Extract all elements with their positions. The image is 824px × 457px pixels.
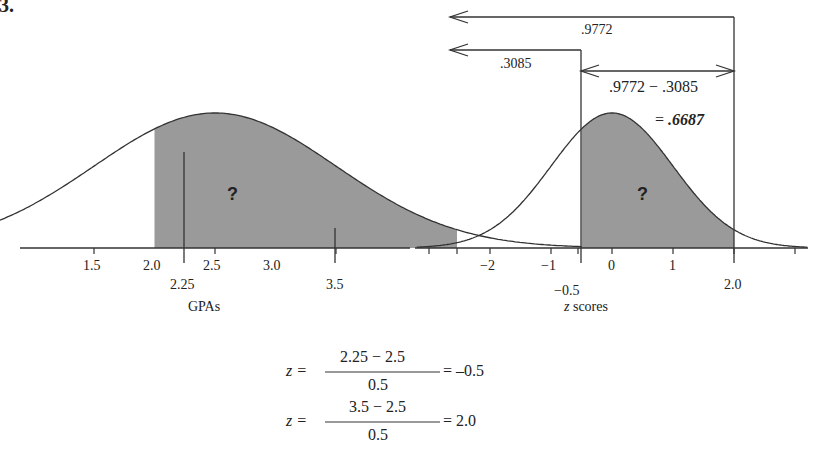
equation-2-numerator: 3.5 − 2.5: [349, 398, 406, 416]
left-tick-label: 2.0: [143, 258, 161, 274]
right-shaded-region: [582, 113, 735, 248]
label-9772: .9772: [581, 22, 613, 38]
equation-1-numerator: 2.25 − 2.5: [340, 348, 405, 366]
right-boundary-label: 2.0: [724, 277, 742, 293]
label-difference: .9772 − .3085: [609, 78, 698, 96]
arrow-difference: [581, 65, 734, 77]
left-axis-ticks: [0, 248, 578, 254]
left-tick-label: 2.5: [203, 258, 221, 274]
left-tick-label: 3.0: [263, 258, 281, 274]
result-prefix: =: [655, 111, 668, 128]
result-value: .6687: [668, 111, 704, 128]
eq1-lhs-text: z =: [286, 362, 307, 379]
left-shaded-region: [155, 113, 458, 248]
left-question-mark: ?: [227, 184, 238, 205]
axis-label-text: scores: [569, 299, 608, 314]
equation-2-rhs: = 2.0: [443, 412, 476, 430]
eq2-lhs-text: z =: [286, 412, 307, 429]
left-boundary-label: 3.5: [326, 277, 344, 293]
right-question-mark: ?: [637, 184, 648, 205]
right-boundary-label: −0.5: [554, 283, 579, 299]
left-axis-label: GPAs: [188, 299, 220, 315]
equation-2-denominator: 0.5: [368, 426, 388, 444]
arrow-3085: [450, 44, 581, 56]
right-axis-label: z scores: [564, 299, 608, 315]
right-axis-ticks: [429, 248, 795, 254]
equation-1-lhs: z =: [286, 362, 307, 380]
left-boundary-label: 2.25: [170, 277, 195, 293]
equation-1-rhs: = –0.5: [443, 362, 484, 380]
right-tick-label: −1: [541, 258, 556, 274]
right-tick-label: 1: [669, 258, 676, 274]
equation-2-lhs: z =: [286, 412, 307, 430]
figure-label: 6.3.: [0, 0, 14, 17]
right-tick-label: 0: [608, 258, 615, 274]
right-tick-label: −2: [480, 258, 495, 274]
figure-canvas: [0, 0, 824, 457]
label-result: = .6687: [655, 111, 704, 129]
label-3085: .3085: [500, 56, 532, 72]
equation-1-denominator: 0.5: [368, 376, 388, 394]
left-tick-label: 1.5: [83, 258, 101, 274]
